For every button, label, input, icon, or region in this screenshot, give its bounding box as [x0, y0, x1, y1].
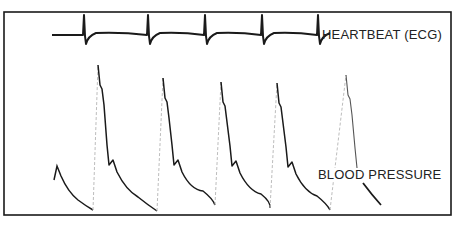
ecg-trace [52, 15, 330, 44]
blood-pressure-trace [54, 65, 381, 211]
ecg-label: HEARTBEAT (ECG) [322, 28, 442, 42]
recording-figure: HEARTBEAT (ECG) BLOOD PRESSURE [0, 0, 465, 225]
plot-frame [4, 12, 451, 215]
blood-pressure-label: BLOOD PRESSURE [317, 168, 442, 182]
